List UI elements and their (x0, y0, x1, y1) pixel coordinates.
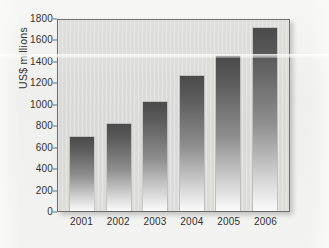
bar (180, 76, 204, 211)
bar (70, 137, 94, 211)
y-axis-tick-label: 400 (9, 164, 53, 174)
bar (216, 56, 240, 211)
x-axis-tick-label: 2002 (106, 216, 130, 236)
bar-slot (253, 20, 277, 211)
y-axis-tick-label: 1600 (9, 35, 53, 45)
bar-slot (70, 20, 94, 211)
bar (143, 102, 167, 211)
bar-series (58, 20, 289, 211)
plot-area (57, 19, 290, 212)
bar-slot (216, 20, 240, 211)
y-axis-tick-label: 1000 (9, 100, 53, 110)
bar (253, 28, 277, 211)
y-axis-tick-label: 200 (9, 186, 53, 196)
y-axis-tick-label: 600 (9, 143, 53, 153)
y-axis-tick-label: 1800 (9, 14, 53, 24)
bar (107, 124, 131, 211)
y-axis-tick-label: 1200 (9, 78, 53, 88)
bar-slot (180, 20, 204, 211)
bar-chart: 020040060080010001200140016001800 US$ mi… (0, 0, 329, 248)
x-axis-tick-label: 2006 (254, 216, 278, 236)
bar-slot (107, 20, 131, 211)
y-axis-tick-label: 800 (9, 121, 53, 131)
x-axis-tick-label: 2001 (69, 216, 93, 236)
y-axis-tick-label: 1400 (9, 57, 53, 67)
y-axis-tick-label: 0 (9, 207, 53, 217)
y-axis-title: US$ millions (17, 0, 29, 133)
x-axis-tick-label: 2004 (180, 216, 204, 236)
x-axis-tick-label: 2005 (217, 216, 241, 236)
bar-slot (143, 20, 167, 211)
x-axis-tick-label: 2003 (143, 216, 167, 236)
x-axis-labels: 200120022003200420052006 (57, 216, 290, 236)
